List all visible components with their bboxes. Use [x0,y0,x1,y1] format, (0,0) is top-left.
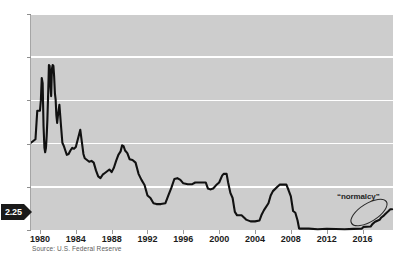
x-tick-label-1996: 1996 [173,235,193,244]
y-tick-mark-0 [27,230,31,231]
y-tick-mark-5 [27,187,31,188]
x-tick-mark-2012 [327,230,328,234]
x-tick-label-2012: 2012 [317,235,337,244]
x-tick-mark-1992 [147,230,148,234]
y-axis-line [30,14,31,231]
y-tick-mark-25 [27,14,31,15]
y-tick-mark-20 [27,57,31,58]
y-tick-mark-10 [27,144,31,145]
normalcy-annotation-label: “normalcy” [337,192,380,201]
y-tick-mark-15 [27,100,31,101]
x-tick-mark-1996 [183,230,184,234]
current-value-callout: 2.25 [1,204,32,220]
series-path [31,65,392,229]
x-tick-label-2016: 2016 [353,235,373,244]
x-tick-label-2000: 2000 [209,235,229,244]
x-tick-mark-1980 [40,230,41,234]
x-tick-label-1992: 1992 [137,235,157,244]
x-tick-mark-2016 [363,230,364,234]
x-tick-mark-1984 [76,230,77,234]
current-value-label: 2.25 [1,204,24,220]
chart-container: 0510152025 19801984198819921996200020042… [0,0,397,259]
x-tick-mark-2000 [219,230,220,234]
callout-arrow-icon [24,204,32,220]
x-tick-mark-1988 [112,230,113,234]
x-tick-label-2004: 2004 [245,235,265,244]
x-tick-mark-2008 [291,230,292,234]
x-tick-label-1984: 1984 [66,235,86,244]
x-tick-label-1988: 1988 [102,235,122,244]
x-tick-label-2008: 2008 [281,235,301,244]
x-tick-label-1980: 1980 [30,235,50,244]
x-tick-mark-2004 [255,230,256,234]
source-note: Source: U.S. Federal Reserve [32,245,122,252]
